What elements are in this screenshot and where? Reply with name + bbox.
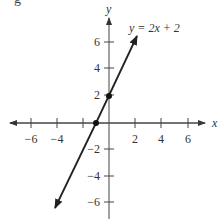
x-tick-label: 6 bbox=[185, 132, 191, 146]
y-tick-label: −6 bbox=[87, 195, 100, 209]
x-tick-label: 2 bbox=[132, 132, 138, 146]
y-tick-label: −2 bbox=[87, 142, 100, 156]
x-tick-label: −6 bbox=[25, 132, 38, 146]
equation-label: y = 2x + 2 bbox=[128, 21, 180, 35]
x-tick-label: 4 bbox=[158, 132, 164, 146]
coordinate-plane: −6 −4 2 4 6 6 4 2 −2 −4 −6 x y y = 2x + … bbox=[0, 0, 219, 219]
x-axis-label: x bbox=[211, 116, 218, 130]
x-intercept-point bbox=[93, 120, 99, 126]
y-tick-label: 4 bbox=[94, 61, 100, 75]
y-tick-label: 6 bbox=[94, 35, 100, 49]
y-axis-label: y bbox=[105, 2, 112, 16]
y-tick-label: −4 bbox=[87, 169, 100, 183]
line-y-equals-2x-plus-2 bbox=[96, 36, 137, 123]
y-tick-label: 2 bbox=[94, 88, 100, 102]
x-tick-label: −4 bbox=[51, 132, 64, 146]
y-intercept-point bbox=[106, 93, 112, 99]
